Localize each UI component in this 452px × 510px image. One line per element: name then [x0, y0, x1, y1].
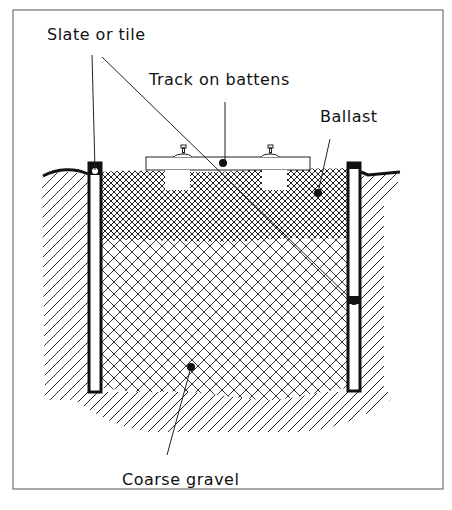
label-slate-or-tile: Slate or tile: [47, 25, 146, 44]
coarse-gravel-layer: [100, 238, 349, 400]
ballast-layer: [100, 168, 349, 242]
rail-left: [174, 145, 192, 157]
leader-dot-gravel: [187, 363, 195, 371]
right-ground-hatch: [361, 173, 398, 400]
label-track-on-battens: Track on battens: [148, 70, 290, 89]
trench-cross-section-diagram: Slate or tile Track on battens Ballast C…: [0, 0, 452, 510]
left-ground-hatch: [42, 172, 88, 400]
leader-dot-ballast: [314, 189, 322, 197]
label-coarse-gravel: Coarse gravel: [122, 470, 239, 489]
leader-dot-track: [219, 159, 227, 167]
leader-dot-slate: [350, 297, 358, 305]
right-slate-wall: [348, 163, 360, 391]
rail-right: [261, 145, 279, 157]
bottom-ground-hatch: [75, 392, 390, 432]
left-slate-wall: [89, 163, 101, 392]
label-ballast: Ballast: [320, 107, 378, 126]
